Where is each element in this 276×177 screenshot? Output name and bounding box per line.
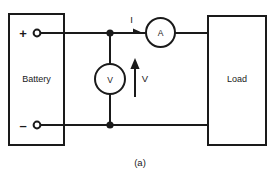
current-label: I (130, 14, 133, 25)
positive-terminal-sign: + (19, 26, 27, 41)
circuit-diagram-figure: A V Battery Load + – I V (a) (0, 0, 276, 177)
ammeter-label: A (158, 28, 164, 38)
current-arrow-icon (133, 29, 143, 33)
battery-label: Battery (22, 74, 51, 84)
voltmeter-label: V (107, 75, 113, 85)
figure-caption: (a) (134, 157, 146, 168)
circuit-schematic: A V Battery Load + – I V (a) (0, 0, 276, 177)
negative-terminal-post (34, 122, 41, 129)
voltage-label: V (142, 73, 149, 84)
positive-terminal-post (34, 30, 41, 37)
negative-terminal-sign: – (19, 118, 26, 133)
voltage-arrow-icon (130, 58, 139, 69)
junction-dot-bottom (106, 121, 113, 128)
load-label: Load (227, 74, 247, 84)
junction-dot-top (106, 29, 113, 36)
